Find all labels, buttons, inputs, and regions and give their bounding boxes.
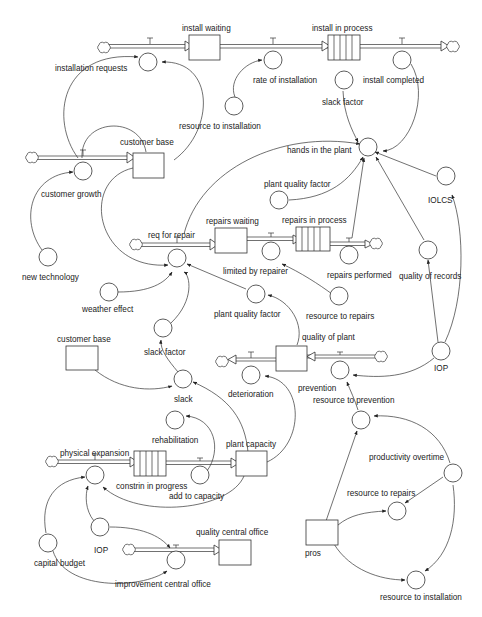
aux-new-technology[interactable]	[39, 248, 57, 266]
cloud-icon	[370, 238, 383, 249]
flow-rate-of-installation[interactable]	[264, 51, 282, 69]
label-slack: slack	[174, 395, 194, 404]
stock-repairs-in-process[interactable]	[296, 227, 330, 251]
flow-repairs-performed[interactable]	[340, 246, 358, 264]
label-deterioration: deterioration	[228, 390, 274, 399]
aux-weather-effect[interactable]	[100, 283, 118, 301]
cloud-icon	[375, 351, 388, 362]
label-physical-expansion: physical expansion	[60, 449, 130, 458]
aux-hands-in-the-plant[interactable]	[359, 138, 377, 156]
flow-add-to-capacity[interactable]	[191, 466, 209, 484]
aux-productivity-overtime[interactable]	[444, 464, 462, 482]
label-resource-to-installation: resource to installation	[179, 122, 261, 131]
label-quality-of-records: quality of records	[399, 272, 461, 281]
aux-resource-to-repairs-top[interactable]	[330, 287, 348, 305]
label-prevention: prevention	[298, 384, 337, 393]
label-resource-to-prevention: resource to prevention	[313, 396, 395, 405]
cloud-icon	[123, 544, 136, 555]
label-limited-by-repairer: limited by repairer	[223, 267, 288, 276]
aux-rehabilitation[interactable]	[166, 411, 184, 429]
cloud-icon	[98, 42, 111, 53]
aux-resource-to-prevention[interactable]	[352, 411, 370, 429]
label-resource-to-repairs: resource to repairs	[347, 489, 415, 498]
label-rehabilitation: rehabilitation	[152, 436, 199, 445]
label-install-in-process: install in process	[312, 24, 373, 33]
stock-repairs-waiting[interactable]	[215, 228, 247, 253]
cloud-icon	[130, 239, 143, 250]
label-plant-quality-factor: plant quality factor	[214, 310, 281, 319]
aux-slack-factor[interactable]	[154, 319, 172, 337]
label-install-waiting: install waiting	[182, 24, 231, 33]
stock-quality-of-plant[interactable]	[276, 346, 307, 371]
flow-customer-growth[interactable]	[74, 162, 92, 180]
stock-constrin-in-progress[interactable]	[134, 451, 166, 476]
label-rate-of-installation: rate of installation	[253, 76, 318, 85]
label-repairs-performed: repairs performed	[327, 271, 392, 280]
stock-flow-diagram: install waiting install in process insta…	[0, 0, 482, 617]
aux-plant-quality-factor[interactable]	[247, 285, 265, 303]
label-resource-to-installation-bottom: resource to installation	[380, 593, 462, 602]
label-add-to-capacity: add to capacity	[169, 492, 225, 501]
label-IOP-left: IOP	[94, 546, 109, 555]
label-plant-quality-factor-top: plant quality factor	[264, 180, 331, 189]
flow-installation-requests[interactable]	[139, 53, 157, 71]
label-pros: pros	[305, 549, 321, 558]
stock-pros[interactable]	[306, 520, 338, 545]
stock-customer-base-2[interactable]	[66, 346, 98, 370]
cloud-icon	[26, 152, 39, 163]
label-installation-requests: installation requests	[55, 64, 127, 73]
flow-req-for-repair[interactable]	[168, 249, 186, 267]
aux-IOLCS[interactable]	[437, 167, 455, 185]
stock-customer-base[interactable]	[133, 153, 164, 178]
label-req-for-repair: req for repair	[148, 231, 195, 240]
aux-plant-quality-factor-top[interactable]	[270, 191, 288, 209]
label-quality-of-plant: quality of plant	[302, 333, 356, 342]
flow-install-completed[interactable]	[393, 51, 411, 69]
flow-physical-expansion[interactable]	[86, 466, 104, 484]
label-slack-factor-top: slack factor	[322, 98, 364, 107]
label-customer-base-2: customer base	[57, 335, 111, 344]
label-improvement-central-office: improvement central office	[115, 580, 211, 589]
auxiliaries	[39, 51, 462, 589]
label-repairs-waiting: repairs waiting	[206, 217, 259, 226]
cloud-icon	[447, 41, 460, 52]
label-new-technology: new technology	[22, 273, 80, 282]
cloud-icon	[216, 356, 229, 367]
label-weather-effect: weather effect	[81, 305, 134, 314]
label-customer-growth: customer growth	[41, 190, 102, 199]
aux-IOP-right[interactable]	[432, 342, 450, 360]
label-resource-to-repairs-top: resource to repairs	[306, 312, 374, 321]
aux-resource-to-installation-bottom[interactable]	[407, 571, 425, 589]
label-IOLCS: IOLCS	[428, 196, 453, 205]
label-hands-in-the-plant: hands in the plant	[287, 146, 352, 155]
stock-plant-capacity[interactable]	[236, 451, 267, 476]
flow-limited-by-repairer[interactable]	[262, 242, 280, 260]
label-quality-central-office: quality central office	[196, 528, 269, 537]
aux-slack[interactable]	[174, 370, 192, 388]
label-install-completed: install completed	[363, 76, 424, 85]
flow-improvement-central-office[interactable]	[167, 551, 185, 569]
stock-install-in-process[interactable]	[328, 35, 360, 60]
aux-resource-to-repairs[interactable]	[388, 502, 406, 520]
label-slack-factor: slack factor	[144, 348, 186, 357]
label-customer-base: customer base	[120, 138, 174, 147]
label-plant-capacity: plant capacity	[226, 440, 277, 449]
stock-quality-central-office[interactable]	[219, 540, 251, 565]
label-IOP-right: IOP	[434, 364, 449, 373]
label-constrin-in-progress: constrin in progress	[116, 482, 187, 491]
aux-capital-budget[interactable]	[39, 534, 57, 552]
aux-quality-of-records[interactable]	[419, 241, 437, 259]
flow-prevention[interactable]	[331, 361, 349, 379]
aux-IOP-left[interactable]	[91, 518, 109, 536]
cloud-icon	[46, 456, 59, 467]
flow-deterioration[interactable]	[242, 366, 260, 384]
label-productivity-overtime: productivity overtime	[369, 453, 445, 462]
stock-install-waiting[interactable]	[189, 35, 220, 60]
label-repairs-in-process: repairs in process	[282, 216, 347, 225]
label-capital-budget: capital budget	[34, 559, 86, 568]
aux-resource-to-installation[interactable]	[225, 97, 243, 115]
aux-slack-factor-top[interactable]	[335, 71, 353, 89]
